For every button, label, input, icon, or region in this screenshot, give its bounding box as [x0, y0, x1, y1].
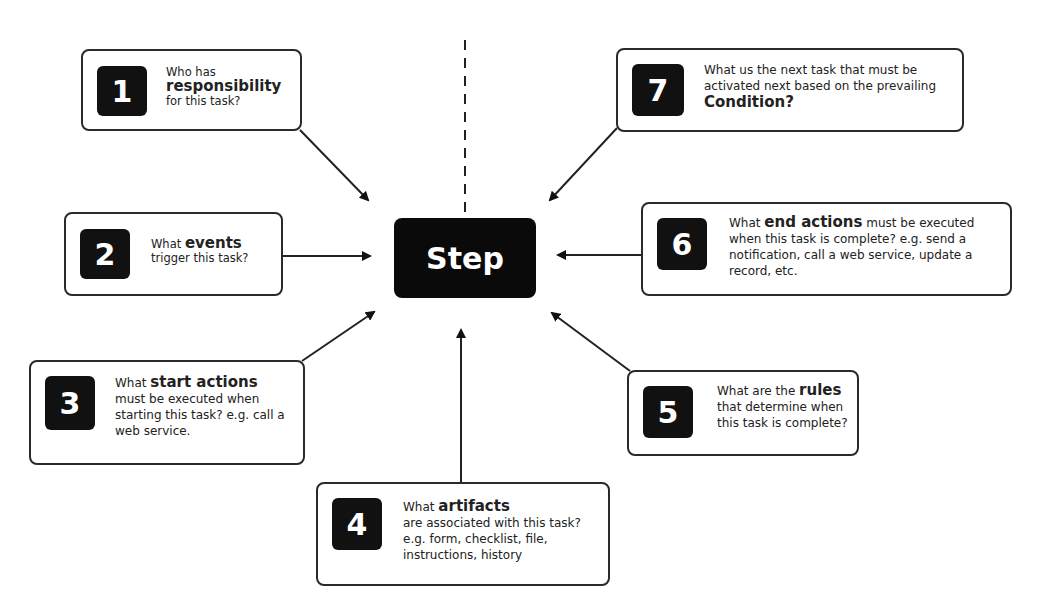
card-next-condition: 7 What us the next task that must be act…	[616, 48, 964, 132]
card-text: What us the next task that must be activ…	[704, 62, 954, 111]
card-artifacts: 4 What artifactsare associated with this…	[316, 482, 610, 586]
card-text: What artifactsare associated with this t…	[403, 498, 603, 563]
number-badge-3: 3	[45, 376, 95, 430]
card-text: What eventstrigger this task?	[151, 236, 276, 265]
step-label: Step	[426, 241, 504, 276]
card-responsibility: 1 Who hasresponsibilityfor this task?	[81, 49, 302, 131]
card-end-actions: 6 What end actions must be executed when…	[641, 202, 1012, 296]
card-text: What start actionsmust be executed when …	[115, 374, 290, 439]
card-text: Who hasresponsibilityfor this task?	[166, 65, 296, 108]
number-badge-1: 1	[97, 66, 147, 116]
card-rules: 5 What are the rulesthat determine when …	[627, 370, 859, 456]
number-badge-6: 6	[657, 218, 707, 270]
number-badge-5: 5	[643, 386, 693, 438]
card-text: What are the rulesthat determine when th…	[717, 382, 857, 431]
number-badge-7: 7	[632, 64, 684, 116]
card-text: What end actions must be executed when t…	[729, 214, 1004, 279]
card-start-actions: 3 What start actionsmust be executed whe…	[29, 360, 305, 465]
number-badge-4: 4	[332, 498, 382, 550]
number-badge-2: 2	[80, 229, 130, 279]
step-node: Step	[394, 218, 536, 298]
card-events: 2 What eventstrigger this task?	[64, 212, 283, 296]
